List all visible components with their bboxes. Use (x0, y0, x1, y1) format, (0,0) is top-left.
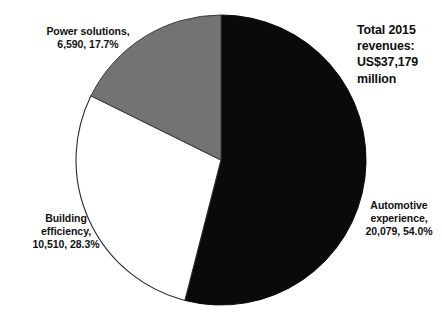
pie-label-automotive-experience-line3: 20,079, 54.0% (356, 225, 442, 238)
pie-label-power-solutions: Power solutions, 6,590, 17.7% (14, 25, 162, 51)
chart-title-line4: million (357, 71, 442, 87)
pie-chart-figure: Power solutions, 6,590, 17.7% Building e… (0, 0, 442, 314)
pie-label-automotive-experience: Automotive experience, 20,079, 54.0% (356, 199, 442, 239)
chart-title: Total 2015 revenues: US$37,179 million (357, 22, 442, 87)
chart-title-line1: Total 2015 (357, 22, 442, 38)
chart-title-line3: US$37,179 (357, 54, 442, 70)
pie-label-building-efficiency-line1: Building (10, 212, 122, 225)
pie-label-automotive-experience-line1: Automotive (356, 199, 442, 212)
pie-label-power-solutions-line2: 6,590, 17.7% (14, 38, 162, 51)
pie-label-power-solutions-line1: Power solutions, (14, 25, 162, 38)
pie-label-building-efficiency-line2: efficiency, (10, 225, 122, 238)
pie-label-building-efficiency: Building efficiency, 10,510, 28.3% (10, 212, 122, 252)
pie-label-building-efficiency-line3: 10,510, 28.3% (10, 238, 122, 251)
pie-label-automotive-experience-line2: experience, (356, 212, 442, 225)
chart-title-line2: revenues: (357, 38, 442, 54)
